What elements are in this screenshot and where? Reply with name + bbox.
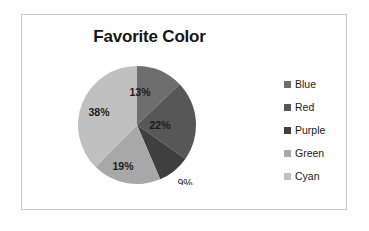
legend-label-purple: Purple <box>295 125 325 136</box>
legend-label-cyan: Cyan <box>295 171 320 182</box>
legend-item-red[interactable]: Red <box>284 96 348 119</box>
legend-swatch-green-icon <box>284 150 291 157</box>
legend-swatch-cyan-icon <box>284 173 291 180</box>
legend-item-green[interactable]: Green <box>284 142 348 165</box>
legend-item-purple[interactable]: Purple <box>284 119 348 142</box>
data-label-green: 19% <box>112 160 134 172</box>
chart-frame: Favorite Color 13% 22% 9% 19% 38% Blue <box>21 14 347 210</box>
pie-plot-area: 13% 22% 9% 19% 38% Blue Red Purple <box>22 15 348 211</box>
legend-label-red: Red <box>295 102 314 113</box>
data-label-purple: 9% <box>177 177 192 185</box>
data-label-blue: 13% <box>129 86 151 98</box>
chart-legend: Blue Red Purple Green Cyan <box>284 73 348 188</box>
data-label-red: 22% <box>149 119 171 131</box>
pie-slices <box>78 66 196 184</box>
legend-item-cyan[interactable]: Cyan <box>284 165 348 188</box>
legend-label-green: Green <box>295 148 324 159</box>
pie-chart: 13% 22% 9% 19% 38% <box>77 65 197 185</box>
legend-item-blue[interactable]: Blue <box>284 73 348 96</box>
data-label-cyan: 38% <box>88 106 110 118</box>
legend-swatch-purple-icon <box>284 127 291 134</box>
legend-swatch-red-icon <box>284 104 291 111</box>
legend-swatch-blue-icon <box>284 81 291 88</box>
legend-label-blue: Blue <box>295 79 316 90</box>
